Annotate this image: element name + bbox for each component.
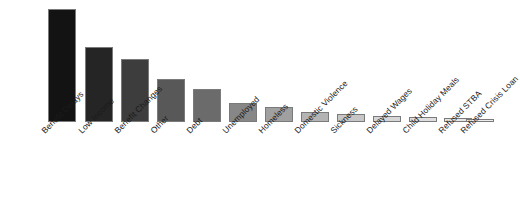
x-tick-label-debt: Debt [185, 116, 204, 135]
x-tick-label-other: Other [149, 114, 170, 135]
